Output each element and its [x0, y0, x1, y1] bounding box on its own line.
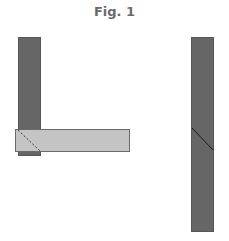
- right-vertical-member: [192, 38, 214, 232]
- left-joint-assembly: [16, 38, 130, 156]
- right-joint-assembly: [192, 38, 214, 232]
- figure-diagram: [0, 0, 229, 241]
- horizontal-member: [16, 130, 130, 152]
